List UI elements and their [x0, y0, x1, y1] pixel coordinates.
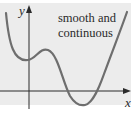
annotation-line-1: smooth and — [58, 11, 117, 25]
smooth-continuous-function-graph: y x smooth and continuous — [0, 0, 135, 119]
annotation-line-2: continuous — [58, 26, 113, 40]
y-axis-label: y — [17, 3, 25, 18]
x-axis-label: x — [124, 95, 131, 110]
